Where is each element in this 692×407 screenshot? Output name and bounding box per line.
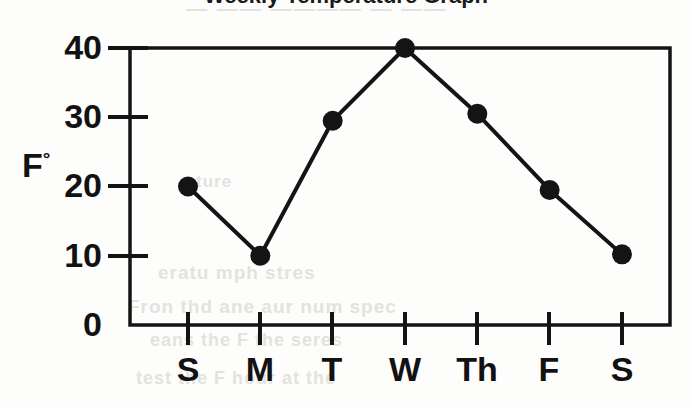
x-tick-label-thursday: Th: [442, 352, 512, 386]
x-tick-label-friday: F: [514, 352, 584, 386]
data-point-f-19.5: [540, 180, 560, 200]
chart-screenshot: — —— ———— — —— ture eratu mph stres Fron…: [0, 0, 692, 407]
x-tick-label-monday: M: [225, 352, 295, 386]
data-point-s-10.2: [612, 244, 632, 264]
y-tick-label-30: 30: [24, 99, 102, 133]
x-tick-label-tuesday: T: [297, 352, 367, 386]
data-point-markers: [178, 38, 632, 266]
y-tick-label-10: 10: [24, 238, 102, 272]
y-tick-label-20: 20: [24, 168, 102, 202]
data-point-t-29.5: [323, 111, 343, 131]
x-tick-label-wednesday: W: [370, 352, 440, 386]
plot-frame: [130, 48, 670, 325]
plot-area: [0, 0, 692, 407]
x-axis-ticks: [188, 312, 622, 345]
y-tick-label-40: 40: [24, 30, 102, 64]
plot-border: [130, 48, 670, 325]
data-line-series: [188, 48, 622, 256]
data-point-m-10: [250, 246, 270, 266]
data-point-s-20: [178, 177, 198, 197]
y-axis-ticks: [108, 48, 148, 256]
x-tick-label-sunday: S: [153, 352, 223, 386]
data-point-th-30.5: [467, 104, 487, 124]
data-point-w-40: [395, 38, 415, 58]
x-tick-label-saturday: S: [587, 352, 657, 386]
y-tick-label-0: 0: [24, 307, 102, 341]
